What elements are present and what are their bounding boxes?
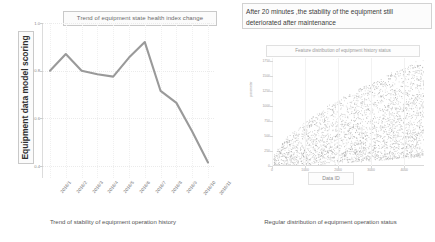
scatter-chart-title: Feature distribution of equipment histor…	[266, 45, 420, 57]
line-chart-x-tick-label: 2016/5	[123, 180, 136, 195]
scatter-gridline	[272, 58, 273, 166]
scatter-chart-caption: Regular distribution of equipment operat…	[226, 219, 435, 225]
scatter-figure: Feature distribution of equipment histor…	[242, 38, 432, 190]
scatter-x-tick-mark	[272, 166, 273, 169]
scatter-x-tick-mark	[371, 166, 372, 169]
scatter-y-tick-label: 1750	[262, 59, 270, 63]
line-chart-x-tick-label: 2016/3	[91, 180, 104, 195]
line-chart-y-axis-label: Equipment data model scoring	[19, 32, 32, 163]
scatter-x-axis-label: Data ID	[308, 172, 354, 185]
scatter-y-tick-mark	[270, 121, 273, 122]
scatter-y-tick-label: 1500	[262, 74, 270, 78]
line-chart-x-tick-label: 2016/4	[107, 180, 120, 195]
scatter-points	[272, 58, 424, 166]
line-chart-x-tick-label: 2016/8	[170, 180, 183, 195]
scatter-y-axis-label: parameter	[248, 69, 254, 109]
line-chart-x-ticks: 2016/12016/22016/32016/42016/52016/62016…	[42, 180, 214, 220]
scatter-gridline	[371, 58, 372, 166]
scatter-plot-area: 02505007501000125015001750 0100020003000…	[272, 58, 424, 166]
line-chart-x-tick-label: 2016/7	[154, 180, 167, 195]
scatter-y-tick-mark	[270, 106, 273, 107]
scatter-x-tick-mark	[305, 166, 306, 169]
line-chart-y-axis-label-box: Equipment data model scoring	[18, 31, 34, 164]
line-chart-x-tick-label: 2016/1	[59, 180, 72, 195]
scatter-y-tick-mark	[270, 61, 273, 62]
line-chart-caption: Trend of stability of equipment operatio…	[0, 219, 226, 225]
scatter-gridline	[404, 58, 405, 166]
scatter-x-tick-mark	[338, 166, 339, 169]
line-chart-plot-area: 1.00.80.60.4	[42, 23, 214, 178]
scatter-y-tick-mark	[270, 151, 273, 152]
scatter-x-axis	[272, 165, 424, 166]
scatter-y-tick-mark	[270, 91, 273, 92]
scatter-gridline	[338, 58, 339, 166]
scatter-y-tick-mark	[270, 136, 273, 137]
scatter-y-tick-mark	[270, 76, 273, 77]
scatter-annotation-note: After 20 minutes ,the stability of the e…	[242, 3, 432, 29]
line-chart-x-tick-label: 2016/10	[203, 180, 218, 197]
scatter-y-tick-label: 1250	[262, 89, 270, 93]
scatter-chart-panel: After 20 minutes ,the stability of the e…	[226, 0, 435, 242]
line-chart-x-tick-label: 2016/9	[186, 180, 199, 195]
line-chart-panel: Trend of equipment state health index ch…	[0, 0, 226, 242]
scatter-gridline	[305, 58, 306, 166]
line-chart-series	[42, 23, 214, 178]
line-chart-x-tick-label: 2016/2	[75, 180, 88, 195]
line-chart-x-tick-label: 2016/6	[138, 180, 151, 195]
scatter-x-tick-mark	[404, 166, 405, 169]
scatter-y-tick-label: 1000	[262, 104, 270, 108]
